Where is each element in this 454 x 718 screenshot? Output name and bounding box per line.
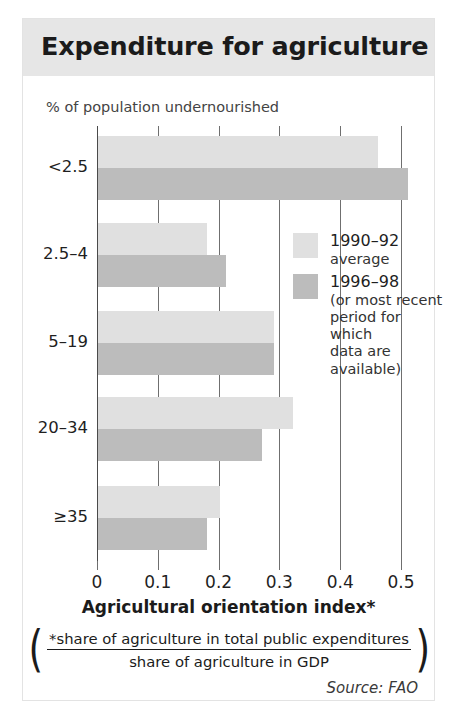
bar-1996-98 xyxy=(98,168,408,200)
source-credit: Source: FAO xyxy=(327,679,419,697)
x-tickmark xyxy=(401,561,402,570)
page-title: Expenditure for agriculture xyxy=(41,31,428,61)
x-tickmark xyxy=(279,561,280,570)
x-tick-label: 0.1 xyxy=(144,572,171,592)
bar-1990-92 xyxy=(98,486,220,518)
category-label: ≥35 xyxy=(53,507,88,526)
fraction: *share of agriculture in total public ex… xyxy=(45,630,413,670)
x-tick-label: 0.5 xyxy=(387,572,414,592)
right-paren-glyph: ) xyxy=(415,631,430,669)
fraction-denominator: share of agriculture in GDP xyxy=(47,650,411,670)
fraction-numerator: *share of agriculture in total public ex… xyxy=(47,630,411,650)
bar-1990-92 xyxy=(98,397,293,429)
x-tick-label: 0.4 xyxy=(327,572,354,592)
chart-card: Expenditure for agriculture % of populat… xyxy=(22,18,435,701)
legend-swatch xyxy=(293,233,318,258)
bar-1990-92 xyxy=(98,223,207,255)
bar-1996-98 xyxy=(98,518,207,550)
x-tickmark xyxy=(158,561,159,570)
bar-1996-98 xyxy=(98,255,226,287)
bar-1996-98 xyxy=(98,343,274,375)
legend-label: 1990–92 xyxy=(330,231,443,251)
legend-item: 1996–98(or most recentperiod for whichda… xyxy=(293,272,443,378)
legend-sublabel: average xyxy=(330,251,443,268)
left-paren-glyph: ( xyxy=(28,631,43,669)
title-bar: Expenditure for agriculture xyxy=(23,19,434,76)
x-axis-ticks: 00.10.20.30.40.5 xyxy=(97,561,401,595)
legend-sublabel: (or most recent xyxy=(330,292,443,309)
x-tickmark xyxy=(97,561,98,570)
category-label: <2.5 xyxy=(48,157,88,176)
x-tick-label: 0.2 xyxy=(205,572,232,592)
legend-label: 1996–98 xyxy=(330,272,443,292)
y-axis-caption: % of population undernourished xyxy=(46,99,279,115)
legend-sublabel: period for which xyxy=(330,309,443,343)
x-tickmark xyxy=(219,561,220,570)
category-label: 2.5–4 xyxy=(43,244,88,263)
bar-1996-98 xyxy=(98,429,262,461)
category-axis-labels: <2.52.5–45–1920–34≥35 xyxy=(23,126,97,561)
x-tick-label: 0.3 xyxy=(266,572,293,592)
x-axis-title: Agricultural orientation index* xyxy=(23,597,434,617)
chart-legend: 1990–92average1996–98(or most recentperi… xyxy=(293,231,443,382)
x-tickmark xyxy=(340,561,341,570)
category-label: 20–34 xyxy=(38,418,88,437)
x-tick-label: 0 xyxy=(92,572,103,592)
bar-1990-92 xyxy=(98,136,378,168)
legend-item: 1990–92average xyxy=(293,231,443,268)
category-label: 5–19 xyxy=(48,332,88,351)
bar-1990-92 xyxy=(98,311,274,343)
legend-sublabel: data are available) xyxy=(330,343,443,377)
formula-note: ( *share of agriculture in total public … xyxy=(35,621,423,679)
legend-swatch xyxy=(293,274,318,299)
